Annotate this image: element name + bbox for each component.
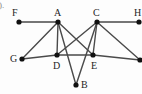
- vertex-label-d: D: [53, 61, 60, 71]
- graph-edge: [22, 55, 57, 59]
- vertex-label-a: A: [54, 8, 61, 18]
- graph-edge: [57, 22, 58, 55]
- vertex-label-h: H: [134, 8, 141, 18]
- vertex-label-b: B: [81, 80, 88, 90]
- vertex-label-e: E: [91, 61, 97, 71]
- vertex-label-g: G: [10, 54, 17, 64]
- graph-edge: [58, 22, 76, 85]
- graph-edge: [97, 22, 140, 60]
- graph-vertex: [55, 19, 60, 24]
- graph-vertex: [16, 19, 21, 24]
- graph-canvas: [0, 0, 142, 94]
- graph-edge: [93, 55, 140, 60]
- graph-figure: ). FACHGDEB: [0, 0, 142, 94]
- graph-edge: [22, 22, 58, 59]
- graph-vertex: [54, 52, 59, 57]
- vertex-label-f: F: [12, 8, 18, 18]
- vertex-label-c: C: [93, 8, 100, 18]
- graph-vertex: [94, 19, 99, 24]
- edge-layer: [19, 22, 140, 85]
- graph-vertex: [73, 82, 78, 87]
- graph-vertex: [19, 56, 24, 61]
- graph-vertex: [90, 52, 95, 57]
- graph-vertex: [136, 19, 141, 24]
